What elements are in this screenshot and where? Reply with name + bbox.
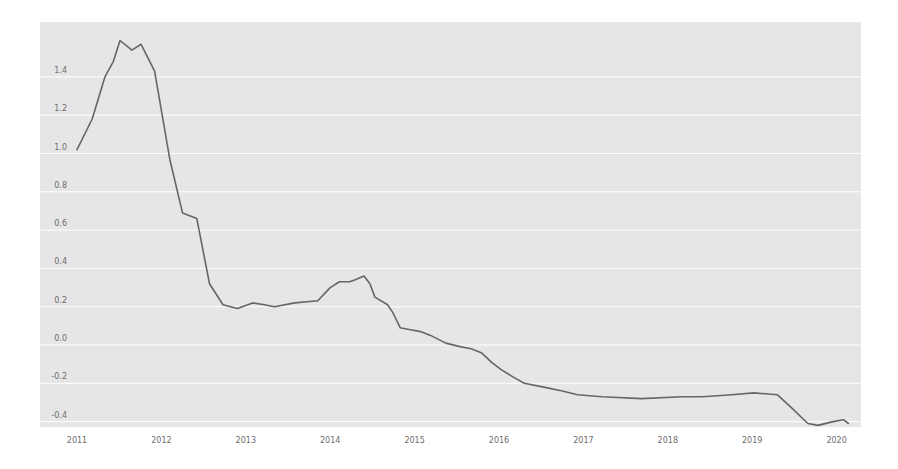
y-tick-label: 0.2 (54, 296, 67, 305)
y-tick-label: 0.0 (54, 334, 67, 343)
y-tick-label: 0.8 (54, 181, 67, 190)
x-tick-label: 2017 (573, 436, 593, 445)
x-axis-ticks: 2011201220132014201520162017201820192020 (67, 436, 847, 445)
x-tick-label: 2014 (320, 436, 340, 445)
y-tick-label: -0.2 (51, 372, 67, 381)
x-tick-label: 2015 (404, 436, 424, 445)
x-tick-label: 2018 (658, 436, 678, 445)
y-tick-label: -0.4 (51, 411, 67, 420)
line-chart: 1.41.21.00.80.60.40.20.0-0.2-0.4 2011201… (0, 0, 898, 469)
y-tick-label: 1.4 (54, 66, 67, 75)
y-tick-label: 0.6 (54, 219, 67, 228)
x-tick-label: 2012 (151, 436, 171, 445)
y-tick-label: 1.0 (54, 143, 67, 152)
x-tick-label: 2016 (489, 436, 509, 445)
x-tick-label: 2013 (236, 436, 256, 445)
y-tick-label: 0.4 (54, 257, 67, 266)
x-tick-label: 2019 (742, 436, 762, 445)
x-tick-label: 2020 (826, 436, 846, 445)
plot-background (40, 22, 861, 427)
x-tick-label: 2011 (67, 436, 87, 445)
y-tick-label: 1.2 (54, 104, 67, 113)
